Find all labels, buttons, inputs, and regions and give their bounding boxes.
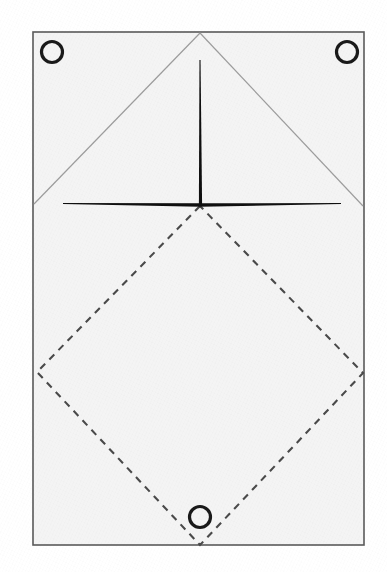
figure-root — [0, 0, 387, 572]
figure-canvas — [0, 0, 387, 572]
sheet-outline — [33, 32, 364, 545]
